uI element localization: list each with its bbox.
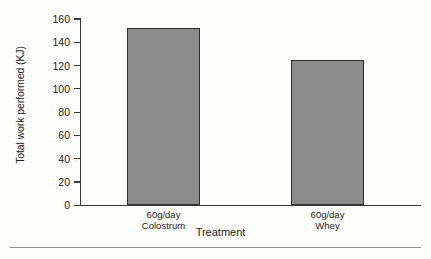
y-tick-label: 40 xyxy=(26,153,70,164)
y-tick-label: 80 xyxy=(26,107,70,118)
x-category-label-line: 60g/day xyxy=(105,209,222,220)
bar-chart-figure: Total work performed (KJ) 02040608010012… xyxy=(0,0,431,259)
y-tick-mark xyxy=(74,158,80,159)
x-category-label-line: 60g/day xyxy=(269,209,386,220)
y-tick-label: 60 xyxy=(26,130,70,141)
y-tick-mark xyxy=(74,181,80,182)
y-tick-label: 0 xyxy=(26,200,70,211)
bar xyxy=(291,60,364,205)
y-axis-title: Total work performed (KJ) xyxy=(10,5,30,205)
y-tick-mark xyxy=(74,42,80,43)
y-tick-mark xyxy=(74,135,80,136)
y-tick-label: 160 xyxy=(26,14,70,25)
bar xyxy=(127,28,200,205)
y-tick-label: 100 xyxy=(26,84,70,95)
y-tick-mark xyxy=(74,88,80,89)
y-tick-mark xyxy=(74,205,80,206)
y-axis-spine xyxy=(80,18,81,206)
x-axis-title-text: Treatment xyxy=(196,226,246,238)
bottom-divider xyxy=(10,247,421,248)
y-tick-label: 20 xyxy=(26,177,70,188)
y-tick-mark xyxy=(74,18,80,19)
y-tick-label: 140 xyxy=(26,37,70,48)
y-tick-mark xyxy=(74,112,80,113)
y-tick-mark xyxy=(74,65,80,66)
y-tick-label: 120 xyxy=(26,60,70,71)
x-axis-title: Treatment xyxy=(0,226,431,238)
